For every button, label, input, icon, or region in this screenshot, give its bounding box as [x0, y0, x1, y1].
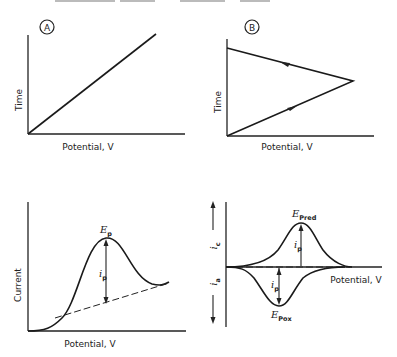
cropped-caption-fragment: [55, 0, 270, 2]
arrowhead-up-icon: [104, 239, 109, 246]
arrow-down-icon: [211, 317, 216, 324]
oxidation-wave-curve: [226, 267, 345, 306]
panel-a: A Potential, V Time: [14, 20, 185, 152]
peak-potential-label: Ep: [99, 224, 112, 238]
svg-text:A: A: [44, 23, 51, 33]
panel-badge-a: A: [40, 20, 54, 34]
svg-text:EPox: EPox: [270, 309, 293, 323]
reduction-peak-label: EPred: [291, 208, 317, 222]
svg-text:EPred: EPred: [291, 208, 317, 222]
svg-text:Ep: Ep: [99, 224, 112, 238]
y-axis-label: Time: [213, 91, 223, 114]
panel-b: B Potential, V Time: [213, 20, 374, 152]
svg-text:ip: ip: [271, 279, 279, 293]
svg-text:ic: ic: [208, 242, 222, 249]
triangular-sweep-line: [227, 48, 353, 136]
linear-ramp-line: [28, 34, 156, 134]
x-axis-label: Potential, V: [64, 339, 116, 349]
cathodic-current-label: ic: [208, 242, 222, 249]
reverse-scan-arrow-icon: [280, 62, 290, 67]
panel-badge-b: B: [245, 20, 259, 34]
reduction-wave-curve: [226, 223, 352, 267]
oxidation-peak-current-label: ip: [271, 279, 279, 293]
arrowhead-up-icon: [299, 224, 304, 231]
svg-text:ia: ia: [208, 278, 222, 286]
svg-text:B: B: [249, 23, 255, 33]
x-axis-label: Potential, V: [62, 142, 114, 152]
oxidation-peak-label: EPox: [270, 309, 293, 323]
arrowhead-up-icon: [277, 268, 282, 275]
forward-scan-arrow-icon: [287, 106, 297, 111]
voltammogram-curve: [28, 238, 169, 331]
x-axis-label: Potential, V: [261, 142, 313, 152]
y-axis-label: Current: [13, 268, 23, 302]
voltammetry-figure: A Potential, V Time B Potential, V Time: [0, 0, 397, 357]
panel-c: Ep ip Potential, V Current: [13, 202, 186, 349]
arrowhead-down-icon: [277, 298, 282, 305]
x-axis-label: Potential, V: [330, 275, 382, 285]
arrow-up-icon: [211, 201, 216, 208]
panel-d: ic ia EPred EPox ip ip Potential, V: [208, 201, 382, 327]
anodic-current-label: ia: [208, 278, 222, 286]
y-axis-label: Time: [14, 89, 24, 112]
